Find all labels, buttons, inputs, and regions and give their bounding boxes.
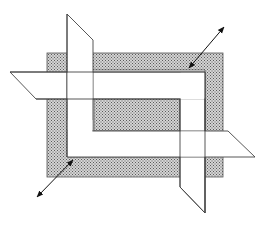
shaded-inner-block [94, 98, 180, 131]
strip-horizontal-top [10, 72, 205, 99]
diagram-canvas [0, 0, 269, 225]
frame-diagram [0, 0, 269, 225]
